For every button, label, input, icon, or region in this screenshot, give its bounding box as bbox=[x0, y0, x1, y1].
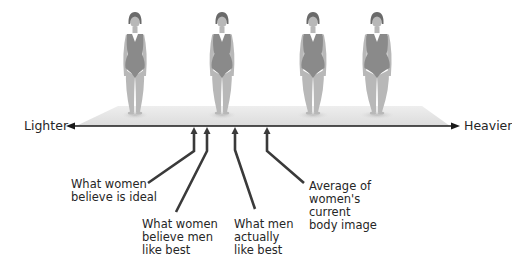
marker-arrowheads bbox=[191, 127, 271, 134]
label-women-believe-men-like-best: What women believe men like best bbox=[142, 218, 218, 257]
marker-arrow-up-icon bbox=[232, 127, 239, 134]
figure-2 bbox=[208, 12, 236, 119]
label-women-believe-ideal: What women believe is ideal bbox=[71, 178, 157, 204]
marker-arrow-up-icon bbox=[191, 127, 198, 134]
marker-arrow-up-icon bbox=[204, 127, 211, 134]
label-average-current-body-image: Average of women's current body image bbox=[309, 180, 377, 232]
leader-average-body-image bbox=[267, 131, 304, 183]
figure-3 bbox=[297, 12, 328, 119]
label-men-actually-like-best: What men actually like best bbox=[234, 218, 293, 257]
axis-label-lighter: Lighter bbox=[24, 118, 68, 133]
figures-group bbox=[122, 12, 394, 119]
figure-4-heaviest bbox=[360, 12, 394, 119]
axis-label-heavier: Heavier bbox=[464, 118, 512, 133]
marker-arrow-up-icon bbox=[264, 127, 271, 134]
arrow-right-icon bbox=[451, 123, 460, 130]
leader-men-actually-like bbox=[235, 131, 255, 209]
figure-1-slimmest bbox=[122, 12, 148, 119]
leader-lines bbox=[148, 131, 304, 212]
leader-women-believe-ideal bbox=[148, 131, 194, 183]
leader-women-believe-men-like bbox=[176, 131, 207, 212]
